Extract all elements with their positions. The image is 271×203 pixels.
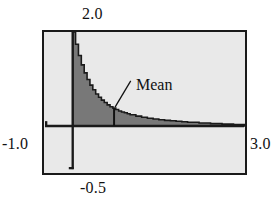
mean-leader-line xyxy=(115,81,131,107)
axis-tick-label-top: 2.0 xyxy=(82,6,103,22)
plot-svg xyxy=(44,32,245,173)
axis-tick-label-left: -1.0 xyxy=(2,136,28,152)
axis-tick-label-right: 3.0 xyxy=(250,136,271,152)
plot-frame xyxy=(42,30,247,175)
axis-tick-label-bottom: -0.5 xyxy=(80,180,106,196)
mean-annotation-label: Mean xyxy=(136,77,172,93)
figure-container: 2.0 -1.0 3.0 -0.5 Mean xyxy=(0,0,271,203)
plot-content xyxy=(45,32,245,169)
